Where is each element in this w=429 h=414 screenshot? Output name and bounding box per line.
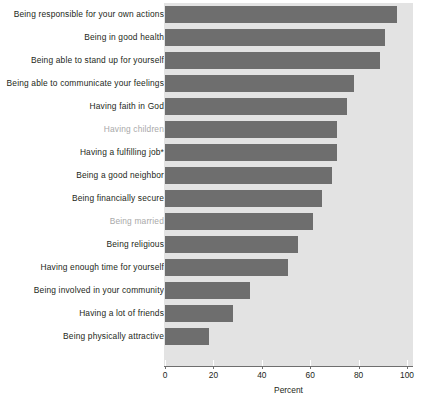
category-label: Having children — [104, 118, 164, 141]
bar-slot — [164, 210, 413, 233]
bar-slot — [164, 49, 413, 72]
plot-area — [164, 3, 413, 366]
category-label: Being financially secure — [72, 187, 164, 210]
bar — [165, 75, 354, 92]
x-axis-tick-labels: 020406080100 — [164, 370, 413, 382]
bar — [165, 6, 397, 23]
category-label: Having enough time for yourself — [41, 256, 164, 279]
category-label: Being responsible for your own actions — [14, 3, 164, 26]
bar-slot — [164, 302, 413, 325]
x-tick-label: 40 — [257, 370, 266, 380]
horizontal-bar-chart: Being responsible for your own actionsBe… — [0, 0, 429, 414]
category-label: Being married — [110, 210, 164, 233]
bar-slot — [164, 26, 413, 49]
bar-slot — [164, 233, 413, 256]
bar-series — [164, 3, 413, 366]
bar — [165, 52, 380, 69]
x-tick-label: 20 — [209, 370, 218, 380]
bar — [165, 282, 250, 299]
bar — [165, 29, 385, 46]
x-tick-label: 80 — [354, 370, 363, 380]
category-label: Being religious — [107, 233, 164, 256]
bar — [165, 305, 233, 322]
bar-slot — [164, 72, 413, 95]
x-tick-mark — [407, 366, 408, 369]
bar-slot — [164, 3, 413, 26]
x-tick-label: 0 — [163, 370, 168, 380]
category-label: Being involved in your community — [34, 279, 164, 302]
bar-slot — [164, 256, 413, 279]
category-label: Having a fulfilling job* — [80, 141, 164, 164]
bar-slot — [164, 95, 413, 118]
bar — [165, 144, 337, 161]
category-label: Having a lot of friends — [79, 302, 164, 325]
x-tick-mark — [310, 366, 311, 369]
bar — [165, 167, 332, 184]
x-tick-label: 60 — [306, 370, 315, 380]
bar-slot — [164, 164, 413, 187]
bar — [165, 98, 347, 115]
bar-slot — [164, 279, 413, 302]
bar-slot — [164, 141, 413, 164]
bar-slot — [164, 118, 413, 141]
bar-slot — [164, 325, 413, 348]
x-tick-mark — [213, 366, 214, 369]
bar — [165, 190, 322, 207]
category-label: Being physically attractive — [63, 325, 164, 348]
category-label: Being able to stand up for yourself — [31, 49, 164, 72]
category-label: Having faith in God — [90, 95, 164, 118]
bar-slot — [164, 187, 413, 210]
x-tick-mark — [359, 366, 360, 369]
category-label: Being in good health — [84, 26, 164, 49]
bar — [165, 236, 298, 253]
category-label: Being able to communicate your feelings — [7, 72, 164, 95]
bar — [165, 213, 313, 230]
bar — [165, 328, 209, 345]
bar — [165, 121, 337, 138]
x-axis-title: Percent — [164, 385, 413, 395]
x-tick-label: 100 — [400, 370, 414, 380]
category-label: Being a good neighbor — [76, 164, 164, 187]
bar — [165, 259, 288, 276]
x-tick-mark — [165, 366, 166, 369]
x-tick-mark — [262, 366, 263, 369]
x-axis-ticks — [164, 360, 413, 367]
